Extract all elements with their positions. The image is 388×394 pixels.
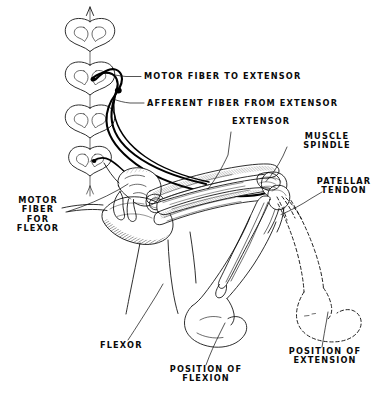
leg-in-extension-dashed bbox=[277, 197, 361, 342]
label-afferent-fiber-from-extensor: AFFERENT FIBER FROM EXTENSOR bbox=[147, 99, 338, 108]
spinal-cord-section-1 bbox=[65, 18, 114, 51]
label-extensor: EXTENSOR bbox=[232, 117, 290, 126]
label-position-of-flexion: POSITION OF FLEXION bbox=[154, 365, 258, 384]
spinal-cord-section-2 bbox=[65, 62, 114, 95]
anatomical-figure: .ln { fill:none; stroke:#0a0a0a; stroke-… bbox=[0, 0, 388, 394]
label-motor-fiber-for-flexor: MOTOR FIBER FOR FLEXOR bbox=[8, 196, 68, 234]
label-position-of-extension: POSITION OF EXTENSION bbox=[271, 347, 379, 366]
ventral-horn-motor-neuron bbox=[91, 77, 96, 82]
lower-leg-bones bbox=[216, 196, 271, 298]
label-flexor: FLEXOR bbox=[100, 341, 143, 350]
patella-and-tendon bbox=[264, 185, 290, 234]
label-motor-fiber-to-extensor: MOTOR FIBER TO EXTENSOR bbox=[144, 72, 301, 81]
label-muscle-spindle: MUSCLE SPINDLE bbox=[288, 132, 366, 151]
label-patellar-tendon: PATELLAR TENDON bbox=[304, 177, 384, 196]
